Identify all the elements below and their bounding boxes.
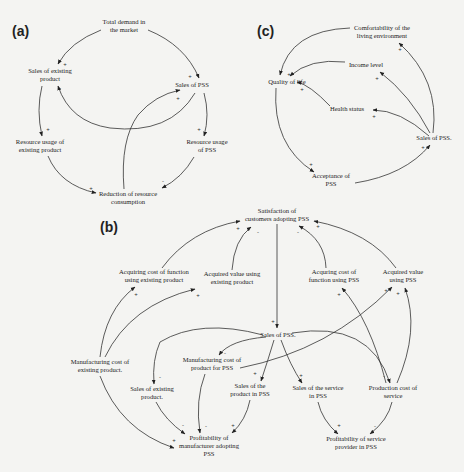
svg-text:+: + — [231, 422, 235, 428]
svg-text:Resource usage: Resource usage — [186, 138, 227, 145]
svg-text:-: - — [59, 85, 61, 91]
node-profit-manufacturer: Profitability of manufacturer adopting P… — [179, 434, 240, 457]
svg-text:Sales of PSS.: Sales of PSS. — [416, 134, 452, 141]
svg-text:Income level: Income level — [349, 61, 383, 68]
svg-text:+: + — [253, 370, 257, 376]
svg-text:Manufacturing cost of: Manufacturing cost of — [183, 356, 242, 363]
node-sales-existing-b: Sales of existing product. — [130, 385, 174, 400]
svg-text:Production cost of: Production cost of — [369, 384, 418, 391]
svg-text:+: + — [89, 185, 93, 191]
edges-panel-a — [39, 30, 207, 193]
node-income-level: Income level — [349, 61, 383, 68]
svg-text:Manufacturing cost of: Manufacturing cost of — [71, 358, 130, 365]
svg-text:Profitability of service: Profitability of service — [326, 435, 385, 442]
svg-text:+: + — [134, 291, 138, 297]
svg-text:+: + — [309, 161, 313, 167]
node-sales-service-pss: Sales of the service in PSS — [292, 384, 343, 399]
svg-text:Sales of PSS: Sales of PSS — [175, 81, 209, 88]
causal-loop-diagrams: (a) Total demand in the market Sales of … — [0, 0, 464, 472]
node-acq-cost-existing: Acquiring cost of function using existin… — [119, 268, 189, 283]
svg-text:+: + — [46, 126, 50, 132]
node-profit-service: Profitability of service provider in PSS — [326, 435, 385, 450]
svg-text:existing product: existing product — [211, 278, 254, 285]
svg-text:using existing product: using existing product — [125, 276, 184, 283]
svg-text:product in PSS: product in PSS — [230, 390, 270, 397]
panel-b: (b) Satisfaction of customers adopting P… — [71, 207, 424, 457]
svg-text:+: + — [172, 437, 176, 443]
svg-text:Acquiring cost of function: Acquiring cost of function — [119, 268, 189, 275]
svg-text:+: + — [196, 292, 200, 298]
svg-text:+: + — [271, 318, 275, 324]
svg-text:service: service — [384, 392, 403, 399]
svg-text:-: - — [257, 229, 259, 235]
svg-text:Profitability of: Profitability of — [189, 434, 229, 441]
svg-text:Sales of existing: Sales of existing — [130, 385, 174, 392]
svg-text:-: - — [374, 423, 376, 429]
node-acq-cost-pss: Acquring cost of function using PSS — [309, 268, 360, 283]
svg-text:Acquired value using: Acquired value using — [204, 270, 261, 277]
svg-text:using PSS: using PSS — [390, 276, 417, 283]
node-health-status: Health status — [330, 105, 365, 112]
svg-text:Quality of life: Quality of life — [268, 78, 305, 85]
svg-text:+: + — [375, 75, 379, 81]
node-satisfaction: Satisfaction of customers adopting PSS — [245, 207, 309, 222]
svg-text:Health status: Health status — [330, 105, 365, 112]
node-sales-pss-c: Sales of PSS. — [416, 134, 452, 141]
node-mfg-cost-existing: Manufacturing cost of existing product. — [71, 358, 130, 373]
svg-text:+: + — [384, 287, 388, 293]
svg-text:Acquring cost of: Acquring cost of — [312, 268, 357, 275]
node-comfortability: Comfortability of the living environment — [354, 24, 410, 39]
svg-text:+: + — [421, 144, 425, 150]
node-resource-usage-pss: Resource usage of PSS — [186, 138, 227, 153]
svg-text:-: - — [383, 373, 385, 379]
svg-text:+: + — [337, 422, 341, 428]
svg-text:-: - — [224, 350, 226, 356]
svg-text:+: + — [396, 290, 400, 296]
svg-text:Sales of existing: Sales of existing — [28, 67, 72, 74]
node-sales-pss: Sales of PSS — [175, 81, 209, 88]
node-acq-value-pss: Acquired value using PSS — [383, 268, 424, 283]
edges-panel-b — [100, 221, 411, 448]
svg-text:+: + — [197, 126, 201, 132]
svg-text:+: + — [316, 223, 320, 229]
svg-text:+: + — [188, 73, 192, 79]
svg-text:+: + — [236, 225, 240, 231]
svg-text:+: + — [372, 113, 376, 119]
svg-text:+: + — [300, 86, 304, 92]
svg-text:+: + — [287, 71, 291, 77]
svg-text:Sales of the service: Sales of the service — [292, 384, 343, 391]
svg-text:customers adopting PSS: customers adopting PSS — [245, 215, 309, 222]
panel-c-label: (c) — [257, 23, 274, 39]
svg-text:Acquired value: Acquired value — [383, 268, 424, 275]
node-acq-value-existing: Acquired value using existing product — [204, 270, 261, 285]
svg-text:PSS: PSS — [325, 180, 336, 187]
node-quality-of-life: Quality of life — [268, 78, 305, 85]
svg-text:+: + — [63, 61, 67, 67]
svg-text:in PSS: in PSS — [309, 392, 327, 399]
svg-text:the market: the market — [110, 26, 138, 33]
svg-text:Reduction of resource: Reduction of resource — [99, 190, 157, 197]
panel-a: (a) Total demand in the market Sales of … — [12, 18, 228, 205]
svg-text:of PSS: of PSS — [198, 146, 216, 153]
svg-text:product: product — [40, 75, 60, 82]
panel-c: (c) Comfortability of the living environ… — [257, 23, 452, 187]
svg-text:+: + — [398, 46, 402, 52]
svg-text:Comfortability of the: Comfortability of the — [354, 24, 410, 31]
node-acceptance-pss: Acceptance of PSS — [312, 172, 351, 187]
svg-text:manufacturer adopting: manufacturer adopting — [179, 442, 240, 449]
svg-text:existing product: existing product — [19, 146, 62, 153]
svg-text:provider in PSS: provider in PSS — [335, 443, 377, 450]
svg-text:Acceptance of: Acceptance of — [312, 172, 351, 179]
svg-text:Total demand in: Total demand in — [103, 18, 146, 25]
svg-text:PSS: PSS — [203, 450, 214, 457]
svg-text:consumption: consumption — [111, 198, 146, 205]
svg-text:product for PSS: product for PSS — [191, 364, 233, 371]
svg-text:-: - — [205, 423, 207, 429]
node-resource-usage-existing: Resource usage of existing product — [16, 138, 65, 153]
node-sales-product-pss: Sales of the product in PSS — [230, 382, 270, 397]
node-production-cost-service: Production cost of service — [369, 384, 418, 399]
node-reduction-resource: Reduction of resource consumption — [99, 190, 157, 205]
svg-text:existing product.: existing product. — [78, 366, 123, 373]
svg-text:living environment: living environment — [357, 32, 408, 39]
node-total-demand: Total demand in the market — [103, 18, 146, 33]
